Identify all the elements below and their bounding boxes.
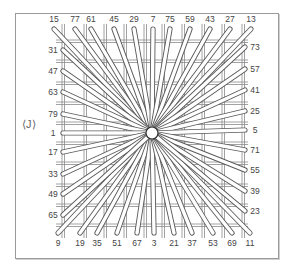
label-top-45: 45 xyxy=(109,15,118,24)
label-top-15: 15 xyxy=(49,15,58,24)
label-top-7: 7 xyxy=(151,15,156,24)
label-top-61: 61 xyxy=(86,15,95,24)
label-bottom-19: 19 xyxy=(75,239,84,248)
label-right-71: 71 xyxy=(250,146,259,155)
label-left-17: 17 xyxy=(48,148,57,157)
label-left-31: 31 xyxy=(48,46,57,55)
label-left-49: 49 xyxy=(48,190,57,199)
label-left-65: 65 xyxy=(48,211,57,220)
label-bottom-69: 69 xyxy=(227,239,236,248)
label-top-77: 77 xyxy=(70,15,79,24)
label-right-41: 41 xyxy=(250,86,259,95)
label-right-23: 23 xyxy=(250,207,259,216)
label-top-59: 59 xyxy=(185,15,194,24)
label-bottom-37: 37 xyxy=(187,239,196,248)
label-left-79: 79 xyxy=(48,110,57,119)
label-top-13: 13 xyxy=(246,15,255,24)
label-bottom-35: 35 xyxy=(92,239,101,248)
label-right-55: 55 xyxy=(250,166,259,175)
label-bottom-3: 3 xyxy=(152,239,157,248)
corner-symbol-icon: ⟨J⟩ xyxy=(22,118,36,131)
label-right-5: 5 xyxy=(253,126,258,135)
label-top-29: 29 xyxy=(129,15,138,24)
label-left-63: 63 xyxy=(48,88,57,97)
label-left-33: 33 xyxy=(48,170,57,179)
label-top-43: 43 xyxy=(205,15,214,24)
label-bottom-11: 11 xyxy=(246,239,255,248)
label-left-47: 47 xyxy=(48,67,57,76)
label-right-25: 25 xyxy=(250,107,259,116)
label-right-57: 57 xyxy=(250,65,259,74)
label-bottom-21: 21 xyxy=(169,239,178,248)
label-bottom-9: 9 xyxy=(56,239,61,248)
label-top-75: 75 xyxy=(165,15,174,24)
label-left-1: 1 xyxy=(51,129,56,138)
label-right-73: 73 xyxy=(250,43,259,52)
label-bottom-53: 53 xyxy=(208,239,217,248)
label-right-39: 39 xyxy=(250,187,259,196)
label-bottom-51: 51 xyxy=(112,239,121,248)
label-bottom-67: 67 xyxy=(132,239,141,248)
label-top-27: 27 xyxy=(225,15,234,24)
